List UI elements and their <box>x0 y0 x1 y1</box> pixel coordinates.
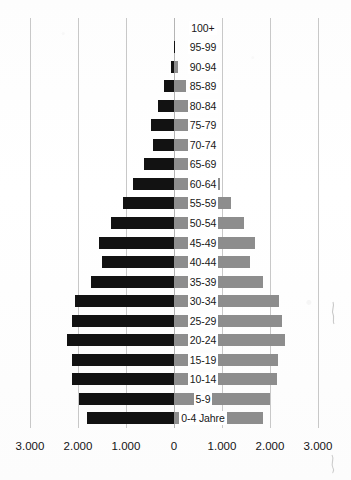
age-group-label: 80-84 <box>174 100 232 112</box>
age-group-label: 95-99 <box>174 41 232 53</box>
bar-left <box>164 80 174 92</box>
x-axis-tick-label: 0 <box>171 440 177 452</box>
pyramid-row: 85-89 <box>30 77 318 97</box>
age-group-label: 25-29 <box>174 315 232 327</box>
age-group-label: 75-79 <box>174 119 232 131</box>
bar-left <box>72 315 174 327</box>
age-group-label: 90-94 <box>174 61 232 73</box>
pyramid-row: 100+ <box>30 18 318 38</box>
x-axis-tick-label: 1.000 <box>208 440 237 452</box>
age-group-label: 10-14 <box>174 373 232 385</box>
gridline-plus-3000 <box>318 18 319 428</box>
pyramid-row: 60-64 <box>30 174 318 194</box>
bar-left <box>151 119 174 131</box>
pyramid-row: 10-14 <box>30 369 318 389</box>
bar-left <box>158 100 174 112</box>
pyramid-row: 30-34 <box>30 291 318 311</box>
x-axis-tick-label: 1.000 <box>112 440 141 452</box>
bar-left <box>72 354 174 366</box>
bar-left <box>133 178 174 190</box>
bar-left <box>153 139 174 151</box>
pyramid-row: 50-54 <box>30 213 318 233</box>
plot-area: 100+95-9990-9485-8980-8475-7970-7465-696… <box>30 18 318 428</box>
age-group-label: 100+ <box>174 22 232 34</box>
bar-left <box>111 217 174 229</box>
x-axis-tick-label: 3.000 <box>16 440 45 452</box>
x-axis-tick-label: 2.000 <box>256 440 285 452</box>
age-group-label: 60-64 <box>174 178 232 190</box>
scan-artifact-bottom-right <box>324 452 342 474</box>
age-group-label: 0-4 Jahre <box>174 412 232 424</box>
age-group-label: 85-89 <box>174 80 232 92</box>
pyramid-row: 45-49 <box>30 233 318 253</box>
pyramid-row: 35-39 <box>30 272 318 292</box>
scan-artifact-right <box>326 300 342 326</box>
pyramid-row: 15-19 <box>30 350 318 370</box>
pyramid-row: 20-24 <box>30 330 318 350</box>
pyramid-row: 75-79 <box>30 116 318 136</box>
pyramid-row: 25-29 <box>30 311 318 331</box>
x-axis-tick-label: 3.000 <box>304 440 333 452</box>
pyramid-row: 80-84 <box>30 96 318 116</box>
pyramid-row: 95-99 <box>30 38 318 58</box>
pyramid-row: 70-74 <box>30 135 318 155</box>
population-pyramid-chart: 100+95-9990-9485-8980-8475-7970-7465-696… <box>0 0 351 480</box>
age-group-label: 50-54 <box>174 217 232 229</box>
x-axis-tick-label: 2.000 <box>64 440 93 452</box>
pyramid-row: 5-9 <box>30 389 318 409</box>
bar-left <box>87 412 174 424</box>
pyramid-row: 90-94 <box>30 57 318 77</box>
age-group-label: 35-39 <box>174 276 232 288</box>
pyramid-row: 0-4 Jahre <box>30 408 318 428</box>
bar-left <box>99 237 174 249</box>
bar-left <box>72 373 174 385</box>
age-group-label: 70-74 <box>174 139 232 151</box>
bar-left <box>79 393 174 405</box>
bar-left <box>67 334 174 346</box>
bar-left <box>102 256 174 268</box>
age-group-label: 45-49 <box>174 237 232 249</box>
age-group-label: 15-19 <box>174 354 232 366</box>
bar-left <box>75 295 174 307</box>
age-group-label: 20-24 <box>174 334 232 346</box>
age-group-label: 65-69 <box>174 158 232 170</box>
bar-left <box>144 158 174 170</box>
x-axis: 3.0002.0001.00001.0002.0003.000 <box>30 440 318 460</box>
bar-left <box>123 197 174 209</box>
age-group-label: 5-9 <box>174 393 232 405</box>
pyramid-row: 65-69 <box>30 155 318 175</box>
pyramid-row: 40-44 <box>30 252 318 272</box>
pyramid-row: 55-59 <box>30 194 318 214</box>
age-group-label: 30-34 <box>174 295 232 307</box>
bar-left <box>91 276 174 288</box>
age-group-label: 40-44 <box>174 256 232 268</box>
age-group-label: 55-59 <box>174 197 232 209</box>
bar-rows: 100+95-9990-9485-8980-8475-7970-7465-696… <box>30 18 318 428</box>
